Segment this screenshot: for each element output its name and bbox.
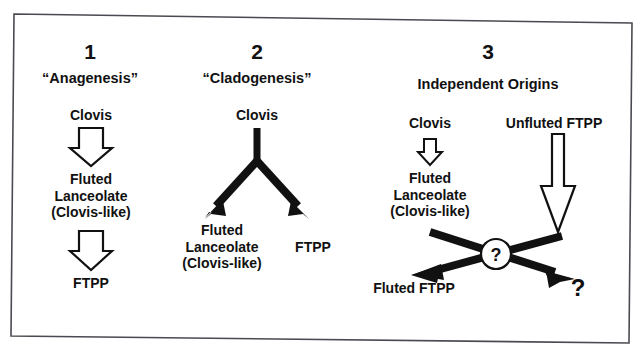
panel-3-crossing-arrows bbox=[0, 0, 644, 362]
panel-3-node-unknown-outcome: ? bbox=[571, 275, 586, 302]
figure-frame: 1 “Anagenesis” Clovis Fluted Lanceolate … bbox=[0, 0, 644, 362]
panel-3-node-fluted-ftpp: Fluted FTPP bbox=[373, 281, 455, 297]
panel-3-question-node-label: ? bbox=[491, 245, 502, 265]
figure-page: 1 “Anagenesis” Clovis Fluted Lanceolate … bbox=[0, 0, 644, 362]
